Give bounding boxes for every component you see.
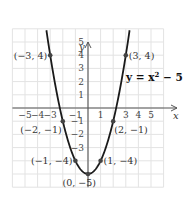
point-label: (1, −4) bbox=[104, 155, 138, 166]
data-point bbox=[73, 159, 78, 164]
point-label: (3, 4) bbox=[129, 50, 155, 61]
point-label: (2, −1) bbox=[114, 124, 148, 135]
y-tick-label: −3 bbox=[71, 143, 85, 153]
y-tick-label: 3 bbox=[78, 63, 84, 73]
point-label: (−3, 4) bbox=[14, 50, 48, 61]
x-axis-label: x bbox=[173, 110, 179, 121]
x-tick-label: −5 bbox=[18, 110, 32, 120]
y-tick-label: 1 bbox=[78, 90, 84, 100]
data-point bbox=[86, 172, 91, 177]
data-point bbox=[48, 53, 53, 58]
data-point bbox=[61, 119, 66, 124]
point-label: (−1, −4) bbox=[31, 155, 72, 166]
x-tick-label: 4 bbox=[136, 110, 142, 120]
x-tick-label: −3 bbox=[44, 110, 58, 120]
point-label: (0, −5) bbox=[62, 177, 96, 188]
y-tick-label: −2 bbox=[71, 129, 84, 139]
y-tick-label: 2 bbox=[78, 77, 84, 87]
y-axis-label: y bbox=[78, 41, 85, 52]
equation-label: y = x2 − 5 bbox=[125, 70, 183, 83]
x-tick-label: 3 bbox=[123, 110, 129, 120]
parabola-chart: −5−4−3−1134554321−1−2−3 (−3, 4)(3, 4)(−2… bbox=[0, 0, 188, 200]
x-tick-label: −4 bbox=[31, 110, 45, 120]
point-label: (−2, −1) bbox=[20, 124, 61, 135]
data-point bbox=[124, 53, 129, 58]
y-tick-label: −1 bbox=[71, 116, 84, 126]
x-tick-label: 5 bbox=[148, 110, 154, 120]
data-point bbox=[111, 119, 116, 124]
data-point bbox=[98, 159, 103, 164]
x-tick-label: 1 bbox=[98, 110, 104, 120]
